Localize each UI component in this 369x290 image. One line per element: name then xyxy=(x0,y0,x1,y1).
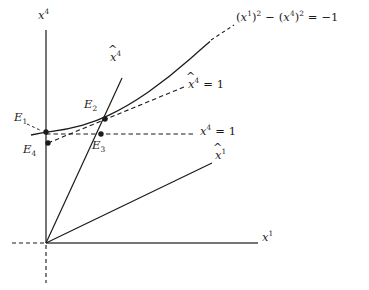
x1-hat-axis-label: ^x1 xyxy=(215,150,226,162)
x4-hat-axis-label-base: ^x xyxy=(110,52,117,64)
diagram-canvas xyxy=(0,0,369,290)
x4-hat-axis-label: ^x4 xyxy=(110,52,121,64)
x4-hat-equals-1-superscript: 4 xyxy=(195,76,200,85)
vertical-axis-label-base: x xyxy=(38,8,45,22)
event-point-E2 xyxy=(102,116,107,121)
x1-hat-axis-label-superscript: 1 xyxy=(222,147,227,156)
horizontal-axis-label: x1 xyxy=(262,232,273,244)
vertical-axis-label: x4 xyxy=(38,10,49,22)
hat-accent-icon: ^ xyxy=(186,71,195,82)
x4-equals-1-base: x xyxy=(200,124,207,138)
event-label-E1: E1 xyxy=(14,112,27,124)
event-label-E1-subscript: 1 xyxy=(23,117,28,126)
x4-equals-1-label: x4 = 1 xyxy=(200,126,236,138)
eq-equals-sign: = xyxy=(308,10,318,24)
eq-minus-operator: − xyxy=(265,10,275,24)
x4-hat-equals-1-base: ^x xyxy=(188,79,195,91)
event-label-E1-base: E xyxy=(14,110,23,124)
x4-equals-1-rest: = 1 xyxy=(215,124,236,138)
x4-equals-1-superscript: 4 xyxy=(207,123,212,132)
event-point-E3 xyxy=(98,131,103,136)
x4-hat-equals-1-label: ^x4 = 1 xyxy=(188,79,224,91)
horizontal-axis-label-base: x xyxy=(262,230,269,244)
event-label-E3-base: E xyxy=(92,138,101,152)
e1-leader-line xyxy=(27,124,42,131)
equation-leader-line xyxy=(211,25,234,40)
event-label-E3: E3 xyxy=(92,140,105,152)
event-label-E4: E4 xyxy=(23,144,36,156)
eq-power-2: 2 xyxy=(299,9,304,18)
x4-hat-equals-1-line xyxy=(48,87,184,143)
eq-base-2: x xyxy=(283,10,290,24)
hat-accent-icon: ^ xyxy=(213,142,222,153)
minkowski-diagram-figure: (x1)2 − (x4)2 = −1 x4 x1 ^x4 ^x1 x4 = 1 … xyxy=(0,0,369,290)
eq-right-hand-side: −1 xyxy=(321,10,338,24)
event-label-E2-subscript: 2 xyxy=(93,104,98,113)
hyperbola-equation-label: (x1)2 − (x4)2 = −1 xyxy=(236,12,339,24)
event-point-E1 xyxy=(43,129,48,134)
event-label-E4-subscript: 4 xyxy=(32,149,37,158)
hat-accent-icon: ^ xyxy=(108,44,117,55)
horizontal-axis-label-superscript: 1 xyxy=(269,229,274,238)
event-label-E3-subscript: 3 xyxy=(101,145,106,154)
x1-hat-axis-label-base: ^x xyxy=(215,150,222,162)
x1-hat-axis-line xyxy=(46,163,212,243)
event-point-E4 xyxy=(45,140,50,145)
vertical-axis-label-superscript: 4 xyxy=(45,7,50,16)
eq-power-1: 2 xyxy=(257,9,262,18)
x4-hat-axis-label-superscript: 4 xyxy=(117,49,122,58)
event-label-E2-base: E xyxy=(84,97,93,111)
x4-hat-equals-1-rest: = 1 xyxy=(203,77,224,91)
event-label-E4-base: E xyxy=(23,142,32,156)
event-label-E2: E2 xyxy=(84,99,97,111)
